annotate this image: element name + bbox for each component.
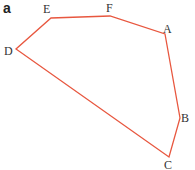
vertex-label-c: C: [164, 159, 172, 170]
vertex-label-b: B: [181, 112, 189, 124]
vertex-label-d: D: [4, 45, 13, 57]
vertex-label-f: F: [106, 2, 113, 14]
polygon-outline: [16, 16, 180, 157]
vertex-label-a: A: [163, 23, 172, 35]
vertex-label-e: E: [43, 3, 50, 15]
